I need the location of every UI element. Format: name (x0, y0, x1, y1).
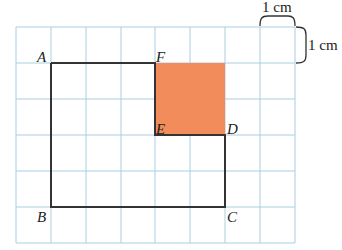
horizontal-scale-label: 1 cm (262, 0, 292, 15)
point-label-b: B (37, 209, 46, 225)
horizontal-brace-icon (260, 16, 295, 26)
point-label-f: F (155, 49, 166, 65)
geometry-figure: A F E D C B 1 cm 1 cm (0, 0, 342, 250)
point-label-d: D (226, 121, 238, 137)
shaded-square-fed (155, 63, 225, 135)
point-label-c: C (227, 209, 238, 225)
vertical-brace-icon (296, 27, 306, 63)
point-label-a: A (36, 49, 47, 65)
vertical-scale-label: 1 cm (308, 37, 338, 53)
point-label-e: E (155, 121, 165, 137)
